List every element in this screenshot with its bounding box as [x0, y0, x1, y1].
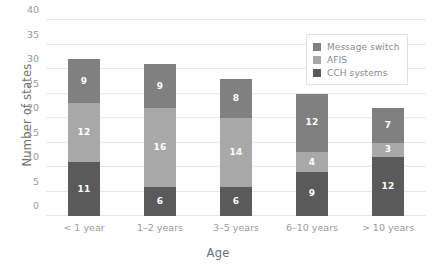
x-axis-tick-label: 6–10 years — [274, 222, 350, 233]
bar-value-label: 6 — [233, 197, 239, 206]
x-axis-title: Age — [0, 246, 436, 260]
bar-value-label: 12 — [78, 128, 91, 137]
bar-value-label: 16 — [154, 143, 167, 152]
bar-value-label: 9 — [81, 77, 87, 86]
legend-item-label: CCH systems — [327, 68, 388, 78]
bar-segment[interactable]: 9 — [296, 172, 328, 216]
bar-value-label: 3 — [385, 145, 391, 154]
bar-value-label: 7 — [385, 121, 391, 130]
y-axis-tick-label: 30 — [27, 53, 39, 64]
bar-stack[interactable]: 6169 — [144, 64, 176, 216]
bar-value-label: 9 — [309, 189, 315, 198]
bar-value-label: 6 — [157, 197, 163, 206]
stacked-bar-chart: Number of states 0510152025303540 111296… — [0, 0, 436, 269]
y-axis-tick-label: 35 — [27, 28, 39, 39]
legend-swatch-icon — [313, 43, 321, 51]
bar-value-label: 11 — [78, 185, 91, 194]
legend-item[interactable]: AFIS — [313, 53, 399, 66]
legend-swatch-icon — [313, 69, 321, 77]
bar-segment[interactable]: 14 — [220, 118, 252, 187]
legend-item-label: Message switch — [327, 42, 399, 52]
bar-stack[interactable]: 9412 — [296, 94, 328, 216]
y-axis-tick-label: 15 — [27, 126, 39, 137]
bar-segment[interactable]: 6 — [144, 187, 176, 216]
x-axis-tick-label: < 1 year — [46, 222, 122, 233]
bar-stack[interactable]: 11129 — [68, 59, 100, 216]
chart-legend: Message switchAFISCCH systems — [306, 34, 408, 85]
bar-segment[interactable]: 11 — [68, 162, 100, 216]
bar-segment[interactable]: 6 — [220, 187, 252, 216]
bar-value-label: 12 — [382, 182, 395, 191]
bar-value-label: 8 — [233, 94, 239, 103]
bar-segment[interactable]: 16 — [144, 108, 176, 186]
bar-segment[interactable]: 3 — [372, 143, 404, 158]
legend-item[interactable]: Message switch — [313, 40, 399, 53]
y-axis-tick-label: 5 — [33, 175, 39, 186]
bar-segment[interactable]: 4 — [296, 152, 328, 172]
bar-segment[interactable]: 8 — [220, 79, 252, 118]
y-axis-tick-label: 10 — [27, 151, 39, 162]
bar-value-label: 9 — [157, 82, 163, 91]
y-axis-tick-label: 0 — [33, 200, 39, 211]
bar-stack[interactable]: 1237 — [372, 108, 404, 216]
bar-segment[interactable]: 12 — [68, 103, 100, 162]
bar-segment[interactable]: 7 — [372, 108, 404, 142]
bar-segment[interactable]: 9 — [68, 59, 100, 103]
bar-value-label: 12 — [306, 118, 319, 127]
y-axis-tick-label: 40 — [27, 4, 39, 15]
legend-item-label: AFIS — [327, 55, 347, 65]
bar-segment[interactable]: 12 — [372, 157, 404, 216]
legend-swatch-icon — [313, 56, 321, 64]
y-axis-tick-label: 20 — [27, 102, 39, 113]
bar-segment[interactable]: 12 — [296, 94, 328, 153]
x-axis-tick-label: 1–2 years — [122, 222, 198, 233]
bar-value-label: 4 — [309, 158, 315, 167]
bar-value-label: 14 — [230, 148, 243, 157]
bar-stack[interactable]: 6148 — [220, 79, 252, 216]
x-axis-tick-label: > 10 years — [350, 222, 426, 233]
y-axis-tick-label: 25 — [27, 77, 39, 88]
x-axis-tick-label: 3–5 years — [198, 222, 274, 233]
legend-item[interactable]: CCH systems — [313, 66, 399, 79]
bar-segment[interactable]: 9 — [144, 64, 176, 108]
